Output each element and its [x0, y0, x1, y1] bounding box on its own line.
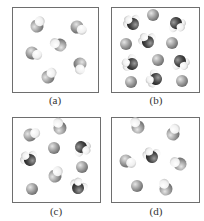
molecule-atom-gray	[166, 37, 178, 49]
molecule-diatomic-light	[48, 35, 68, 53]
molecule-atom-gray	[120, 38, 132, 50]
molecule-diatomic-light	[168, 154, 188, 172]
molecule-polyatomic-dark	[136, 30, 158, 51]
molecule-polyatomic-dark	[141, 146, 162, 165]
molecule-atom-gray	[26, 183, 38, 195]
molecule-polyatomic-dark	[120, 11, 144, 34]
molecule-diatomic-light	[156, 177, 174, 197]
molecule-polyatomic-dark	[169, 52, 191, 73]
atom-gray	[26, 183, 38, 195]
molecule-polyatomic-dark	[70, 137, 94, 161]
atom-white	[75, 65, 85, 75]
molecule-diatomic-light	[24, 45, 44, 63]
molecule-diatomic-light	[22, 125, 42, 143]
molecule-diatomic-light	[74, 58, 87, 75]
atom-gray	[76, 161, 88, 173]
atom-gray	[131, 180, 143, 192]
molecule-polyatomic-dark	[17, 147, 41, 170]
molecule-diatomic-light	[46, 164, 66, 185]
atom-gray	[147, 9, 159, 21]
molecule-layer	[0, 0, 204, 221]
atom-gray	[120, 38, 132, 50]
atom-gray	[48, 142, 60, 154]
atom-gray	[166, 37, 178, 49]
molecule-atom-gray	[131, 180, 143, 192]
molecule-polyatomic-dark	[119, 51, 142, 75]
molecule-atom-gray	[76, 161, 88, 173]
atom-gray	[125, 76, 137, 88]
molecule-atom-gray	[125, 76, 137, 88]
molecule-diatomic-light	[165, 122, 183, 142]
atom-gray	[176, 75, 188, 87]
molecule-atom-gray	[48, 142, 60, 154]
molecule-diatomic-light	[127, 115, 147, 136]
molecule-polyatomic-dark	[145, 68, 164, 89]
atom-gray	[152, 54, 164, 66]
molecule-diatomic-light	[68, 18, 89, 38]
molecule-diatomic-light	[118, 153, 138, 171]
molecule-polyatomic-dark	[165, 13, 189, 36]
molecule-diatomic-light	[39, 65, 60, 86]
molecule-diatomic-light	[28, 14, 48, 35]
molecule-polyatomic-dark	[67, 176, 89, 197]
molecule-atom-gray	[152, 54, 164, 66]
molecule-atom-gray	[176, 75, 188, 87]
molecule-atom-gray	[147, 9, 159, 21]
molecule-diatomic-light	[50, 116, 68, 136]
